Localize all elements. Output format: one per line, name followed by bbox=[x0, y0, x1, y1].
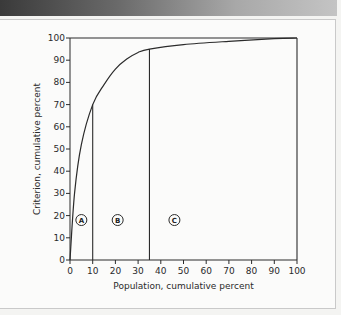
x-tick-label: 80 bbox=[246, 266, 258, 276]
x-tick-label: 90 bbox=[269, 266, 281, 276]
region-label-c: C bbox=[172, 217, 177, 225]
x-tick-label: 70 bbox=[223, 266, 235, 276]
x-tick-label: 40 bbox=[155, 266, 167, 276]
y-tick-label: 40 bbox=[54, 166, 66, 176]
y-tick-label: 50 bbox=[54, 144, 66, 154]
x-tick-label: 30 bbox=[132, 266, 144, 276]
region-label-a: A bbox=[79, 217, 85, 225]
y-axis-title: Criterion, cumulative percent bbox=[32, 83, 42, 216]
x-tick-label: 100 bbox=[288, 266, 305, 276]
x-tick-label: 50 bbox=[178, 266, 190, 276]
y-tick-label: 80 bbox=[54, 77, 66, 87]
cumulative-curve bbox=[70, 38, 297, 260]
lorenz-chart: 0102030405060708090100010203040506070809… bbox=[0, 0, 341, 315]
y-tick-label: 30 bbox=[54, 188, 66, 198]
x-tick-label: 20 bbox=[110, 266, 122, 276]
x-axis-title: Population, cumulative percent bbox=[113, 281, 254, 291]
y-tick-label: 60 bbox=[54, 122, 66, 132]
y-tick-label: 20 bbox=[54, 211, 66, 221]
x-tick-label: 10 bbox=[87, 266, 99, 276]
y-tick-label: 90 bbox=[54, 55, 66, 65]
x-tick-label: 0 bbox=[67, 266, 73, 276]
y-tick-label: 0 bbox=[59, 255, 65, 265]
y-tick-label: 70 bbox=[54, 100, 66, 110]
x-tick-label: 60 bbox=[200, 266, 212, 276]
y-tick-label: 10 bbox=[54, 233, 66, 243]
region-label-b: B bbox=[115, 217, 120, 225]
y-tick-label: 100 bbox=[48, 33, 65, 43]
